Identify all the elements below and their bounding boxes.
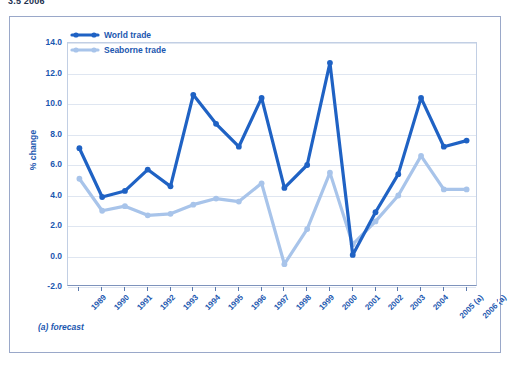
x-tick [420,287,421,291]
x-tick [397,287,398,291]
chart-frame: % change 14.012.010.08.06.04.02.00.0-2.0… [9,16,501,353]
data-point [122,203,128,209]
legend-marker-seaborne-trade [70,45,100,55]
data-point [259,180,265,186]
data-point [168,211,174,217]
x-tick [170,287,171,291]
data-point [145,212,151,218]
plot-wrapper: % change 14.012.010.08.06.04.02.00.0-2.0… [10,17,502,354]
x-tick [192,287,193,291]
x-tick [124,287,125,291]
legend-label-world-trade: World trade [104,30,151,40]
data-point [464,187,470,193]
y-tick-label: 4.0 [32,191,62,200]
data-point [76,176,82,182]
x-tick [238,287,239,291]
data-point [395,193,401,199]
x-tick [78,287,79,291]
data-point [418,153,424,159]
y-tick-label: 14.0 [32,38,62,47]
data-point [190,202,196,208]
x-tick-label: 1993 [181,293,200,312]
data-point [259,95,265,101]
legend-item-seaborne-trade: Seaborne trade [70,42,166,57]
data-point [281,185,287,191]
x-tick [443,287,444,291]
data-point [441,144,447,150]
data-point [76,145,82,151]
x-tick-label: 1999 [317,293,336,312]
y-tick-label: 8.0 [32,130,62,139]
data-point [236,199,242,205]
y-tick-label: 6.0 [32,160,62,169]
x-axis-labels: 1989199019911992199319941995199619971998… [67,287,477,347]
x-tick [375,287,376,291]
x-tick-label: 1997 [272,293,291,312]
data-point [304,162,310,168]
data-point [168,183,174,189]
data-point [190,92,196,98]
top-caption: 3.5 2006 [8,0,45,6]
data-point [122,188,128,194]
footnote: (a) forecast [38,322,84,332]
x-tick-label: 1990 [112,293,131,312]
x-tick [215,287,216,291]
data-point [99,208,105,214]
legend-label-seaborne-trade: Seaborne trade [104,45,166,55]
data-point [281,261,287,267]
y-tick-label: 2.0 [32,221,62,230]
y-tick-label: 0.0 [32,252,62,261]
x-tick-label: 1996 [249,293,268,312]
data-point [304,226,310,232]
x-tick-label: 2000 [340,293,359,312]
x-tick [261,287,262,291]
x-tick [283,287,284,291]
x-tick-label: 2001 [363,293,382,312]
chart-legend: World trade Seaborne trade [70,27,166,57]
x-tick-label: 1989 [90,293,109,312]
series-layer [68,43,478,287]
x-tick [329,287,330,291]
x-tick-label: 2002 [386,293,405,312]
data-point [441,187,447,193]
y-axis-ticks: 14.012.010.08.06.04.02.00.0-2.0 [26,17,62,354]
x-tick-label: 1995 [226,293,245,312]
x-tick [466,287,467,291]
data-point [327,60,333,66]
x-tick-label: 1998 [295,293,314,312]
x-tick [147,287,148,291]
data-point [418,95,424,101]
data-point [145,167,151,173]
x-tick-label: 1992 [158,293,177,312]
x-tick-label: 2005 (a) [458,293,485,320]
series-seaborne-trade [76,153,469,267]
data-point [236,144,242,150]
x-tick-label: 1994 [203,293,222,312]
data-point [327,170,333,176]
data-point [350,252,356,258]
data-point [213,196,219,202]
data-point [395,171,401,177]
y-tick-label: -2.0 [32,282,62,291]
legend-item-world-trade: World trade [70,27,166,42]
plot-area [67,42,477,286]
x-tick-label: 2003 [408,293,427,312]
y-tick-label: 10.0 [32,99,62,108]
data-point [99,194,105,200]
x-tick-label: 2004 [431,293,450,312]
data-point [373,209,379,215]
x-tick-label: 1991 [135,293,154,312]
y-tick-label: 12.0 [32,69,62,78]
data-point [213,121,219,127]
x-tick-label: 2006 (a) [480,293,507,320]
x-tick [306,287,307,291]
legend-marker-world-trade [70,30,100,40]
x-tick [352,287,353,291]
x-tick [101,287,102,291]
data-point [464,138,470,144]
